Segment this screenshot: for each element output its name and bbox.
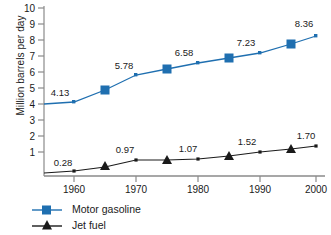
data-label-gasoline-1970: 5.78 <box>115 60 134 71</box>
data-label-gasoline-1990: 7.23 <box>237 37 256 48</box>
legend-marker-square-icon <box>42 206 51 215</box>
x-tick-label-2000: 2000 <box>305 184 328 195</box>
y-tick-label-1: 1 <box>29 147 35 158</box>
x-axis-ticks <box>74 176 316 182</box>
legend-label-motor-gasoline: Motor gasoline <box>72 203 141 215</box>
legend-item-motor-gasoline[interactable]: Motor gasoline <box>32 203 141 215</box>
y-tick-label-8: 8 <box>29 35 35 46</box>
y-axis-ticks <box>38 8 44 152</box>
data-label-jetfuel-1990: 1.52 <box>238 136 257 147</box>
y-tick-label-6: 6 <box>29 67 35 78</box>
data-label-gasoline-1960: 4.13 <box>51 87 70 98</box>
data-label-jetfuel-1970: 0.97 <box>116 144 135 155</box>
x-tick-label-1960: 1960 <box>63 184 86 195</box>
data-label-jetfuel-1960: 0.28 <box>54 157 73 168</box>
chart-plot-area: 10 9 8 7 6 5 4 3 2 1 1960 1970 1980 1990… <box>0 0 331 235</box>
data-label-jetfuel-1980: 1.07 <box>179 143 198 154</box>
x-tick-label-1980: 1980 <box>187 184 210 195</box>
y-tick-label-9: 9 <box>29 19 35 30</box>
x-tick-label-1970: 1970 <box>125 184 148 195</box>
y-tick-label-2: 2 <box>29 131 35 142</box>
data-label-gasoline-1980: 6.58 <box>175 47 194 58</box>
x-tick-label-1990: 1990 <box>249 184 272 195</box>
legend-label-jet-fuel: Jet fuel <box>72 219 106 231</box>
y-tick-label-10: 10 <box>24 3 36 14</box>
chart-container: Million barrels per day 10 9 8 7 6 5 4 3… <box>0 0 331 235</box>
y-tick-label-5: 5 <box>29 83 35 94</box>
data-label-gasoline-2000: 8.36 <box>295 18 314 29</box>
y-tick-label-7: 7 <box>29 51 35 62</box>
legend-marker-triangle-icon <box>42 220 52 230</box>
chart-legend: Motor gasoline Jet fuel <box>32 203 141 231</box>
data-label-jetfuel-2000: 1.70 <box>297 130 316 141</box>
legend-item-jet-fuel[interactable]: Jet fuel <box>32 219 106 231</box>
y-tick-label-3: 3 <box>29 115 35 126</box>
y-tick-label-4: 4 <box>29 99 35 110</box>
